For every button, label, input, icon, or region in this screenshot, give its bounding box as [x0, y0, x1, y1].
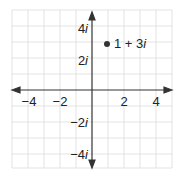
- y-axis-up-arrow-icon: [89, 12, 95, 20]
- point-label: 1 + 3i: [114, 36, 147, 51]
- point-marker-icon: [104, 41, 110, 47]
- x-axis-right-arrow-icon: [164, 87, 172, 93]
- x-axis-left-arrow-icon: [12, 87, 20, 93]
- y-tick-label: −2i: [70, 115, 89, 130]
- y-tick-label: 2i: [78, 53, 89, 68]
- y-tick-label: 4i: [78, 21, 89, 36]
- x-tick-label: −4: [22, 94, 37, 109]
- x-tick-label: 2: [120, 94, 127, 109]
- x-axis-tick-labels: −4 −2 2 4: [22, 94, 160, 109]
- y-tick-label: −4i: [70, 147, 89, 162]
- x-tick-label: 4: [152, 94, 159, 109]
- point-1-plus-3i: 1 + 3i: [104, 36, 147, 51]
- x-tick-label: −2: [53, 94, 68, 109]
- y-axis-down-arrow-icon: [89, 160, 95, 168]
- complex-plane-diagram: −4 −2 2 4 4i 2i −2i −4i 1 + 3i: [0, 0, 177, 179]
